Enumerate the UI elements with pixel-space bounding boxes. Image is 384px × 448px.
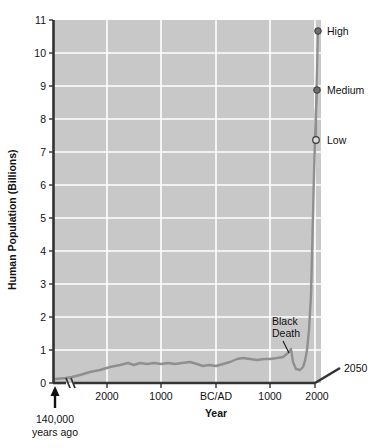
svg-text:6: 6 (40, 179, 46, 191)
svg-text:2000: 2000 (95, 390, 119, 402)
projection-label-medium: Medium (327, 84, 365, 96)
svg-text:1: 1 (40, 344, 46, 356)
projection-year-label: 2050 (344, 362, 368, 374)
y-axis-title: Human Population (Billions) (6, 149, 18, 290)
svg-text:8: 8 (40, 113, 46, 125)
projection-label-high: High (327, 25, 349, 37)
svg-text:0: 0 (40, 377, 46, 389)
svg-text:1000: 1000 (258, 390, 282, 402)
svg-text:11: 11 (35, 14, 46, 26)
x-axis-title: Year (205, 407, 227, 419)
origin-label-line1: 140,000 (36, 413, 74, 425)
projection-marker-high (315, 28, 322, 35)
svg-text:9: 9 (40, 80, 46, 92)
svg-text:2: 2 (40, 311, 46, 323)
svg-text:7: 7 (40, 146, 46, 158)
origin-label-line2: years ago (32, 426, 78, 438)
population-chart: High Medium Low Black Death 0 1 2 3 4 5 … (0, 0, 384, 448)
svg-text:4: 4 (40, 245, 46, 257)
black-death-label-line1: Black (272, 315, 298, 327)
projection-label-low: Low (327, 134, 347, 146)
projection-marker-low (313, 137, 320, 144)
black-death-label-line2: Death (272, 327, 300, 339)
svg-text:3: 3 (40, 278, 46, 290)
svg-text:2000: 2000 (305, 390, 329, 402)
svg-text:1000: 1000 (149, 390, 173, 402)
svg-text:10: 10 (34, 47, 46, 59)
projection-marker-medium (314, 87, 321, 94)
svg-text:5: 5 (40, 212, 46, 224)
svg-text:BC/AD: BC/AD (200, 390, 233, 402)
